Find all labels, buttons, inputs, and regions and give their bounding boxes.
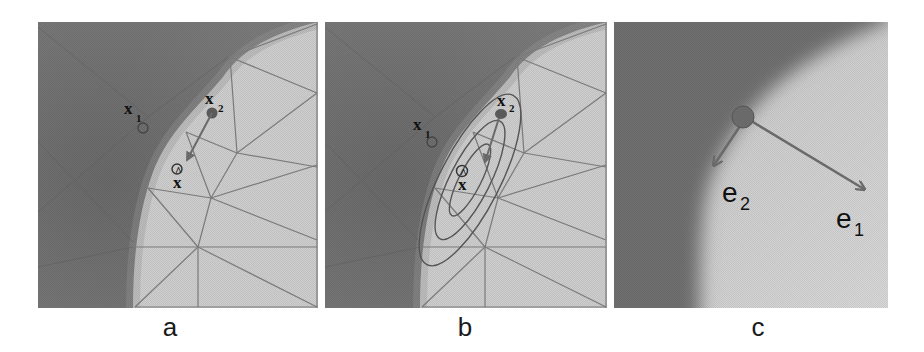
panel-a-figure: x 1 x 2 x ^ <box>38 22 318 308</box>
panel-c: e 2 e 1 <box>614 22 888 308</box>
e2-label: e <box>722 177 738 208</box>
x1-label: x <box>413 115 422 134</box>
origin-point <box>732 106 754 128</box>
xhat-hat: ^ <box>460 166 467 180</box>
x2-label: x <box>497 91 506 110</box>
panel-a: x 1 x 2 x ^ <box>38 22 318 308</box>
e1-label: e <box>836 203 852 234</box>
x1-label: x <box>124 99 133 118</box>
caption-b: b <box>445 312 485 343</box>
caption-a: a <box>150 312 190 343</box>
x2-marker <box>495 109 507 119</box>
x1-subscript: 1 <box>136 112 142 124</box>
panel-b-figure: x 1 x 2 x ^ <box>325 22 607 308</box>
x2-subscript: 2 <box>218 102 224 114</box>
e1-subscript: 1 <box>854 220 864 240</box>
panel-b: x 1 x 2 x ^ <box>325 22 607 308</box>
e2-subscript: 2 <box>740 194 750 214</box>
x2-label: x <box>205 89 214 108</box>
caption-c: c <box>738 312 778 343</box>
xhat-hat: ^ <box>175 164 182 178</box>
panel-c-figure: e 2 e 1 <box>614 22 888 308</box>
x2-subscript: 2 <box>509 102 515 114</box>
